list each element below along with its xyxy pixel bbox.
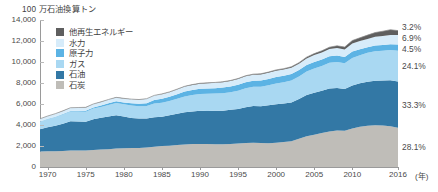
y-tick-label: 10,000	[2, 57, 36, 66]
legend-item-5: 石炭	[56, 80, 133, 91]
y-tick-mark	[40, 83, 44, 84]
y-tick-mark	[40, 20, 44, 21]
y-tick-label: 8,000	[2, 78, 36, 87]
x-tick-label: 2016	[389, 170, 407, 179]
x-tick-label: 1990	[191, 170, 209, 179]
legend-label: 石油	[69, 70, 85, 78]
y-tick-label: 12,000	[2, 36, 36, 45]
legend-swatch-icon	[56, 39, 64, 47]
legend-label: 原子力	[69, 49, 93, 57]
x-tick-label: 2005	[305, 170, 323, 179]
share-label-other_renewables: 3.2%	[402, 22, 421, 32]
x-tick-mark	[200, 167, 201, 170]
x-tick-mark	[238, 167, 239, 170]
x-tick-mark	[398, 167, 399, 170]
share-label-oil: 33.3%	[402, 100, 426, 110]
share-label-coal: 28.1%	[402, 142, 426, 152]
share-label-nuclear: 4.5%	[402, 44, 421, 54]
x-tick-label: 1970	[39, 170, 57, 179]
legend-label: 水力	[69, 39, 85, 47]
y-tick-label: 0	[2, 162, 36, 171]
chart-legend: 他再生エネルギー水力原子力ガス石油石炭	[56, 27, 133, 91]
y-tick-label: 2,000	[2, 141, 36, 150]
y-tick-label: 14,000	[2, 15, 36, 24]
x-tick-mark	[48, 167, 49, 170]
x-tick-label: 1980	[115, 170, 133, 179]
x-tick-mark	[352, 167, 353, 170]
y-tick-label: 4,000	[2, 120, 36, 129]
legend-swatch-icon	[56, 71, 64, 79]
x-tick-mark	[314, 167, 315, 170]
x-tick-label: 1985	[153, 170, 171, 179]
legend-swatch-icon	[56, 49, 64, 57]
energy-consumption-chart: 100 万石油換算トン 02,0004,0006,0008,00010,0001…	[0, 0, 438, 192]
x-tick-mark	[124, 167, 125, 170]
share-label-hydro: 6.9%	[402, 33, 421, 43]
share-label-gas: 24.1%	[402, 61, 426, 71]
x-tick-label: 2000	[267, 170, 285, 179]
x-tick-mark	[162, 167, 163, 170]
x-axis-line	[40, 167, 398, 168]
legend-swatch-icon	[56, 81, 64, 89]
x-tick-mark	[86, 167, 87, 170]
y-tick-mark	[40, 146, 44, 147]
legend-label: 石炭	[69, 81, 85, 89]
x-axis-unit-label: (年)	[415, 170, 428, 181]
legend-item-3: ガス	[56, 59, 133, 70]
legend-item-1: 水力	[56, 38, 133, 49]
x-tick-label: 2010	[343, 170, 361, 179]
x-tick-label: 1975	[77, 170, 95, 179]
x-tick-mark	[276, 167, 277, 170]
legend-item-0: 他再生エネルギー	[56, 27, 133, 38]
y-tick-mark	[40, 125, 44, 126]
y-axis-unit-label: 100 万石油換算トン	[22, 2, 96, 14]
legend-swatch-icon	[56, 28, 64, 36]
legend-swatch-icon	[56, 60, 64, 68]
legend-label: 他再生エネルギー	[69, 28, 133, 36]
y-tick-mark	[40, 41, 44, 42]
legend-item-2: 原子力	[56, 48, 133, 59]
legend-label: ガス	[69, 60, 85, 68]
y-tick-mark	[40, 104, 44, 105]
y-tick-mark	[40, 62, 44, 63]
x-tick-label: 1995	[229, 170, 247, 179]
y-tick-label: 6,000	[2, 99, 36, 108]
legend-item-4: 石油	[56, 69, 133, 80]
